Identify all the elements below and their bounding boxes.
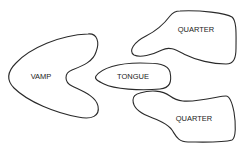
tongue-piece: TONGUE	[95, 63, 170, 90]
pattern-diagram: VAMP TONGUE QUARTER QUARTER	[0, 0, 252, 150]
vamp-outline	[9, 34, 98, 118]
tongue-label: TONGUE	[117, 72, 149, 81]
quarter-bottom-piece: QUARTER	[133, 91, 235, 142]
vamp-label: VAMP	[31, 72, 52, 81]
quarter-top-outline	[132, 11, 236, 64]
vamp-piece: VAMP	[9, 34, 98, 118]
quarter-top-label: QUARTER	[178, 25, 215, 34]
quarter-bottom-label: QUARTER	[176, 114, 213, 123]
quarter-top-piece: QUARTER	[132, 11, 236, 64]
